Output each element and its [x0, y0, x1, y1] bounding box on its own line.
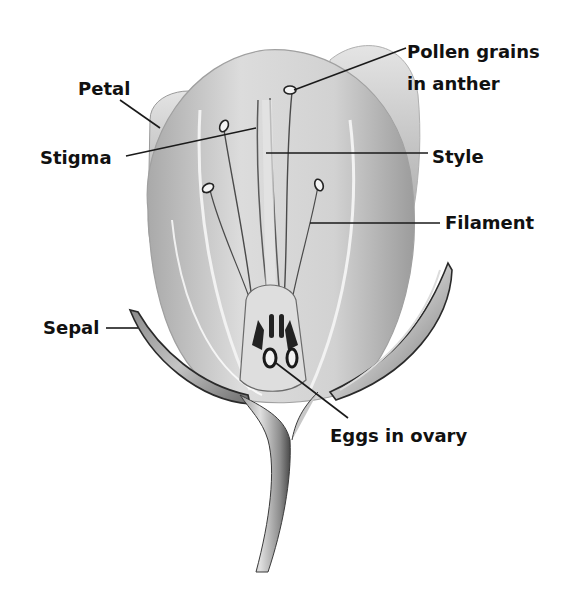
label-stigma: Stigma: [40, 147, 112, 168]
label-sepal: Sepal: [43, 317, 99, 338]
label-petal: Petal: [78, 78, 130, 99]
label-pollen-grains: Pollen grains: [407, 41, 540, 62]
label-style: Style: [432, 146, 484, 167]
label-filament: Filament: [445, 212, 535, 233]
ovary: [240, 285, 306, 391]
label-eggs-in-ovary: Eggs in ovary: [330, 425, 467, 446]
label-pollen-in-anther: in anther: [407, 73, 500, 94]
stem: [240, 392, 318, 572]
flower-diagram: Petal Stigma Pollen grains in anther Sty…: [0, 0, 584, 594]
